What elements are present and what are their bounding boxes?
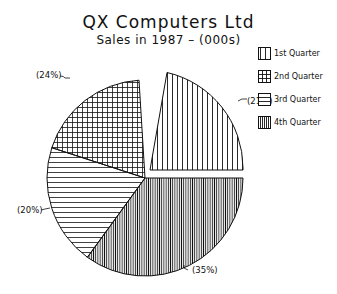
label-3rd-quarter: (20%) bbox=[17, 205, 43, 215]
label-4th-quarter: (35%) bbox=[192, 265, 218, 275]
vertical-lines-swatch-icon bbox=[258, 47, 271, 60]
legend: 1st Quarter 2nd Quarter 3rd Quarter 4th … bbox=[258, 47, 323, 139]
legend-item-4th-quarter: 4th Quarter bbox=[258, 116, 323, 128]
dense-lines-swatch-icon bbox=[258, 116, 271, 129]
legend-label: 1st Quarter bbox=[274, 49, 320, 58]
pie-chart bbox=[0, 0, 337, 294]
legend-item-1st-quarter: 1st Quarter bbox=[258, 47, 323, 59]
horizontal-lines-swatch-icon bbox=[258, 93, 271, 106]
grid-swatch-icon bbox=[258, 70, 271, 83]
legend-label: 2nd Quarter bbox=[274, 72, 323, 81]
legend-label: 3rd Quarter bbox=[274, 95, 321, 104]
legend-item-2nd-quarter: 2nd Quarter bbox=[258, 70, 323, 82]
label-2nd-quarter: (24%) bbox=[36, 70, 62, 80]
legend-label: 4th Quarter bbox=[274, 118, 321, 127]
slice-1st-quarter bbox=[150, 73, 243, 171]
legend-item-3rd-quarter: 3rd Quarter bbox=[258, 93, 323, 105]
